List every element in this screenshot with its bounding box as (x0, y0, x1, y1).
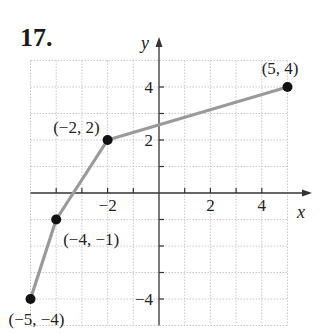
graph-figure: 17. −22442−4 (−5, −4)(−4, −1)(−2, 2)(5, … (0, 0, 327, 333)
data-point (103, 135, 113, 145)
x-axis-label: x (296, 202, 305, 222)
y-tick-label: −4 (135, 290, 154, 309)
data-point (283, 82, 293, 92)
x-axis-arrow-icon (302, 190, 312, 197)
point-label: (−2, 2) (53, 118, 99, 137)
y-tick-label: 2 (145, 131, 154, 150)
axes (31, 37, 313, 326)
point-label: (5, 4) (262, 59, 299, 78)
y-tick-label: 4 (145, 78, 154, 97)
point-label: (−5, −4) (9, 310, 65, 329)
x-tick-label: 2 (206, 196, 215, 215)
x-tick-label: −2 (99, 196, 117, 215)
y-axis-label: y (139, 33, 149, 53)
point-label: (−4, −1) (63, 230, 119, 249)
data-point (51, 215, 61, 225)
data-points: (−5, −4)(−4, −1)(−2, 2)(5, 4) (9, 59, 299, 329)
y-axis-arrow-icon (156, 37, 163, 47)
problem-number: 17. (20, 23, 53, 52)
x-tick-label: 4 (258, 196, 267, 215)
data-point (26, 294, 36, 304)
